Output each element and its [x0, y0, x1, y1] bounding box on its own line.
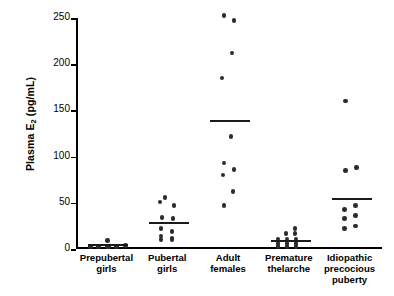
data-point: [172, 203, 177, 208]
data-point: [285, 244, 290, 249]
chart-figure: Plasma E2 (pg/mL) 050100150200250 Prepub…: [0, 0, 394, 296]
data-point: [158, 200, 163, 205]
data-point: [220, 76, 225, 81]
data-point: [284, 231, 289, 236]
y-tick-group: 100: [0, 157, 70, 158]
mean-line: [271, 240, 311, 242]
data-point: [170, 237, 175, 242]
data-point: [342, 226, 347, 231]
y-tick-label: 100: [36, 150, 70, 161]
data-point: [353, 224, 358, 229]
data-point: [343, 99, 348, 104]
mean-line: [210, 120, 250, 122]
data-point: [354, 165, 359, 170]
data-point: [231, 189, 236, 194]
x-axis-labels: PrepubertalgirlsPubertalgirlsAdultfemale…: [76, 252, 382, 296]
y-tick-group: 200: [0, 64, 70, 65]
y-axis-title: Plasma E2 (pg/mL): [24, 34, 36, 214]
data-point: [229, 134, 234, 139]
y-tick-label: 150: [36, 103, 70, 114]
x-axis-label-line: precocious: [313, 263, 386, 274]
data-point: [159, 237, 164, 242]
data-point: [159, 226, 164, 231]
y-axis-title-subscript: 2: [29, 119, 38, 123]
y-tick-group: 250: [0, 18, 70, 19]
data-point: [353, 203, 358, 208]
x-axis-category-label: Idiopathicprecociouspuberty: [313, 252, 386, 286]
data-point: [232, 18, 237, 23]
data-point: [105, 238, 110, 243]
data-point: [221, 173, 226, 178]
plot-area: [78, 18, 382, 249]
y-tick-label: 250: [36, 11, 70, 22]
y-axis-title-prefix: Plasma E: [24, 124, 36, 172]
data-point: [170, 229, 175, 234]
y-tick-mark: [71, 249, 76, 251]
y-tick-label: 0: [36, 242, 70, 253]
data-point: [163, 195, 168, 200]
data-point: [222, 13, 227, 18]
data-point: [222, 203, 227, 208]
mean-line: [88, 244, 128, 246]
x-axis-label-line: puberty: [313, 274, 386, 285]
data-point: [230, 51, 235, 56]
data-point: [342, 216, 347, 221]
y-tick-group: 0: [0, 249, 70, 250]
y-axis-title-suffix: (pg/mL): [24, 77, 36, 119]
x-axis-label-line: Idiopathic: [313, 252, 386, 263]
data-point: [353, 213, 358, 218]
mean-line: [332, 198, 372, 200]
y-tick-label: 50: [36, 196, 70, 207]
y-tick-group: 150: [0, 110, 70, 111]
data-point: [232, 167, 237, 172]
data-point: [276, 244, 281, 249]
data-point: [294, 244, 299, 249]
y-tick-label: 200: [36, 57, 70, 68]
data-point: [293, 231, 298, 236]
y-tick-group: 50: [0, 203, 70, 204]
data-point: [343, 168, 348, 173]
data-point: [342, 207, 347, 212]
data-point: [222, 161, 227, 166]
data-point: [160, 215, 165, 220]
mean-line: [149, 222, 189, 224]
data-point: [171, 216, 176, 221]
